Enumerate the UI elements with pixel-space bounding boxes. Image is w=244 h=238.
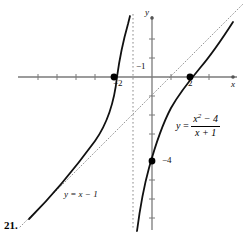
figure-graph-rational-function: y x −2 −1 2 −4 y = x − 1 y = x2 − 4 x + … [0, 0, 244, 238]
tick-label-x-neg2: −2 [113, 79, 123, 88]
point-y-intercept-neg4 [149, 158, 156, 165]
figure-number-label: 21. [4, 219, 18, 231]
y-axis-label: y [145, 8, 149, 17]
equation-denominator: x + 1 [193, 127, 218, 139]
equation-numerator: x2 − 4 [191, 113, 220, 127]
function-equation-label: y = x2 − 4 x + 1 [176, 113, 220, 138]
tick-label-vertical-asymptote: −1 [136, 62, 146, 71]
x-axis-label: x [231, 80, 235, 89]
equation-numerator-rest: − 4 [201, 113, 218, 124]
equation-equals-sign: = [182, 120, 189, 131]
slant-asymptote-label: y = x − 1 [64, 190, 98, 199]
y-axis-end-dot [150, 16, 154, 20]
tick-label-x-2: 2 [188, 79, 193, 88]
equation-fraction: x2 − 4 x + 1 [191, 113, 220, 138]
equation-lhs: y [176, 120, 180, 131]
tick-label-y-neg4: −4 [162, 156, 172, 165]
